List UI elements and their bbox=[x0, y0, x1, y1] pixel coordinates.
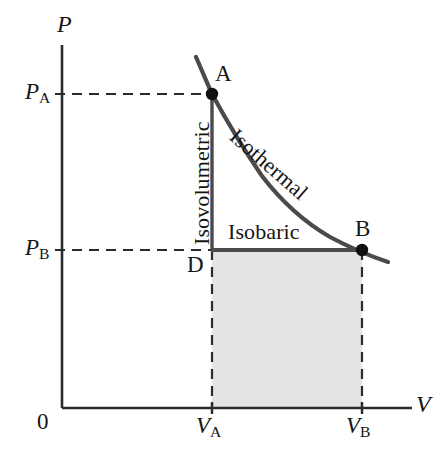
tick-label-p-b-symbol: P bbox=[25, 235, 39, 260]
pv-diagram-figure: P V 0 PA PB VA VB A B D Isovolumetric Is… bbox=[0, 0, 442, 458]
tick-label-v-a-symbol: V bbox=[196, 413, 210, 438]
tick-label-p-a: PA bbox=[25, 80, 51, 106]
state-point-a bbox=[206, 88, 218, 100]
x-axis-label: V bbox=[416, 392, 431, 416]
tick-label-p-b: PB bbox=[25, 236, 50, 262]
work-area-shading bbox=[212, 250, 362, 408]
tick-label-p-a-sub: A bbox=[39, 89, 50, 106]
state-point-b bbox=[356, 244, 368, 256]
y-axis-label: P bbox=[57, 12, 72, 36]
tick-label-v-a: VA bbox=[196, 414, 222, 440]
tick-label-v-b-sub: B bbox=[360, 423, 371, 440]
tick-label-v-a-sub: A bbox=[210, 423, 221, 440]
tick-label-v-b-symbol: V bbox=[346, 413, 360, 438]
process-label-isovolumetric: Isovolumetric bbox=[191, 122, 213, 246]
tick-label-p-a-symbol: P bbox=[25, 79, 39, 104]
process-label-isobaric: Isobaric bbox=[228, 221, 300, 243]
state-label-d: D bbox=[187, 253, 204, 276]
origin-label: 0 bbox=[37, 410, 49, 433]
tick-label-p-b-sub: B bbox=[39, 245, 50, 262]
state-label-b: B bbox=[355, 217, 370, 240]
state-label-a: A bbox=[215, 62, 232, 85]
tick-label-v-b: VB bbox=[346, 414, 371, 440]
